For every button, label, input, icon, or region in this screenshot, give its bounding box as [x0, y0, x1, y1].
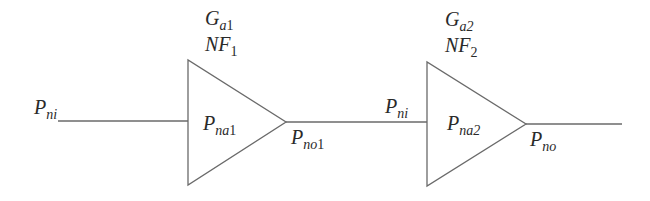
stage2-internal-noise-label: Pna2: [447, 113, 480, 133]
label-sub: na: [215, 123, 229, 138]
input-noise-label: Pni: [34, 97, 57, 117]
label-main: P: [530, 128, 542, 150]
stage2-gain-label: Ga2: [445, 9, 473, 29]
label-sub: ni: [46, 107, 57, 122]
stage2-output-noise-label: Pno: [530, 129, 556, 149]
stage1-gain-label: Ga1: [205, 8, 233, 28]
cascade-diagram: [0, 0, 650, 201]
label-sub: na2: [459, 123, 480, 138]
label-main: P: [385, 95, 397, 117]
label-sub-num: 1: [229, 123, 236, 138]
label-sub: no: [542, 139, 556, 154]
stage1-internal-noise-label: Pna1: [203, 113, 236, 133]
label-sub-num: 2: [471, 45, 478, 60]
label-sub: no: [303, 137, 317, 152]
label-sub-num: 1: [231, 44, 238, 59]
label-main: P: [447, 112, 459, 134]
label-main: P: [203, 112, 215, 134]
stage1-noise-figure-label: NF1: [205, 34, 238, 54]
label-sub: ni: [397, 106, 408, 121]
label-main: NF: [205, 33, 231, 55]
label-main: NF: [445, 34, 471, 56]
label-main: G: [205, 7, 219, 29]
label-main: P: [291, 126, 303, 148]
label-main: P: [34, 96, 46, 118]
label-main: G: [445, 8, 459, 30]
stage2-input-noise-label: Pni: [385, 96, 408, 116]
stage1-output-noise-label: Pno1: [291, 127, 324, 147]
label-sub-num: 1: [317, 137, 324, 152]
label-sub-num: 1: [226, 18, 233, 33]
label-sub: a2: [459, 19, 473, 34]
stage2-noise-figure-label: NF2: [445, 35, 478, 55]
